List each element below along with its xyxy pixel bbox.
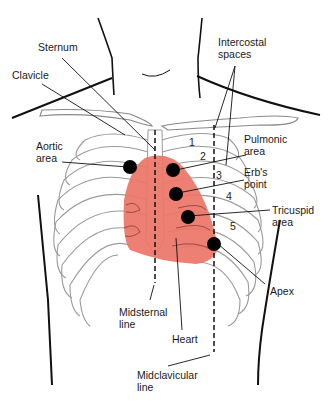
apex-dot	[207, 237, 221, 251]
label-aortic-area: Aortic area	[36, 140, 63, 164]
label-midclavicular-line: Midclavicular line	[137, 369, 198, 393]
label-apex: Apex	[270, 285, 294, 297]
intercostal-number-1: 1	[189, 136, 195, 148]
label-heart: Heart	[172, 333, 198, 345]
label-clavicle: Clavicle	[12, 69, 49, 81]
label-midsternal-line: Midsternal line	[119, 306, 167, 330]
intercostal-number-3: 3	[216, 169, 222, 181]
chest-illustration	[0, 0, 332, 401]
label-tricuspid-area: Tricuspid area	[272, 204, 314, 228]
neck-outline	[98, 18, 202, 98]
aortic-area-dot	[123, 160, 137, 174]
label-intercostal-spaces: Intercostal spaces	[218, 36, 266, 60]
label-erbs-point: Erb's point	[244, 166, 268, 190]
label-sternum: Sternum	[38, 41, 78, 53]
pulmonic-area-dot	[166, 163, 180, 177]
chest-diagram: 1 2 3 4 5 Sternum Clavicle Intercostal s…	[0, 0, 332, 401]
tricuspid-area-dot	[181, 210, 195, 224]
erbs-point-dot	[169, 187, 183, 201]
intercostal-number-4: 4	[226, 190, 232, 202]
label-pulmonic-area: Pulmonic area	[244, 133, 287, 157]
intercostal-number-2: 2	[200, 150, 206, 162]
intercostal-number-5: 5	[230, 220, 236, 232]
